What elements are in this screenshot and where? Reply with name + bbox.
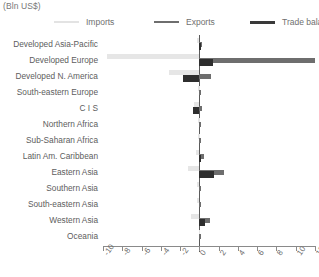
category-label: South-eastern Europe xyxy=(0,87,98,97)
x-axis-tick-label: -2 xyxy=(179,246,190,257)
legend-item-trade-balance: Trade balance xyxy=(250,15,319,29)
x-axis-line xyxy=(103,246,315,247)
bar-row xyxy=(103,102,315,118)
x-axis-tick-label: -4 xyxy=(160,246,171,257)
x-axis-tick-label: 4 xyxy=(237,248,247,257)
legend-item-imports: Imports xyxy=(54,15,114,29)
category-label: Eastern Asia xyxy=(0,167,98,177)
bar-row xyxy=(103,166,315,182)
bar-balance xyxy=(193,107,200,114)
x-axis-tick-label: 6 xyxy=(256,248,266,257)
bar-row xyxy=(103,230,315,246)
bar-row xyxy=(103,182,315,198)
category-label: Developed N. America xyxy=(0,71,98,81)
category-label: C I S xyxy=(0,103,98,113)
chart-legend: Imports Exports Trade balance xyxy=(54,15,316,29)
bar-row xyxy=(103,134,315,150)
legend-item-exports: Exports xyxy=(154,15,215,29)
bar-balance xyxy=(183,75,199,82)
legend-label-exports: Exports xyxy=(186,17,215,27)
x-axis-tick-label: -8 xyxy=(121,246,132,257)
bar-exports xyxy=(199,106,202,111)
plot-area xyxy=(103,38,315,246)
bar-exports xyxy=(199,90,200,95)
bar-imports xyxy=(191,214,200,219)
category-label: Western Asia xyxy=(0,215,98,225)
bar-exports xyxy=(199,186,201,191)
category-label: Latin Am. Caribbean xyxy=(0,151,98,161)
bar-row xyxy=(103,198,315,214)
category-label: Oceania xyxy=(0,231,98,241)
legend-label-trade-balance: Trade balance xyxy=(282,17,319,27)
bar-row xyxy=(103,214,315,230)
category-label: Northern Africa xyxy=(0,119,98,129)
legend-swatch-exports xyxy=(154,21,179,23)
bar-exports xyxy=(199,74,211,79)
bar-balance xyxy=(199,171,213,178)
category-label: Southern Asia xyxy=(0,183,98,193)
x-axis-tick-label: 2 xyxy=(218,248,228,257)
bar-balance xyxy=(199,59,212,66)
trade-balance-chart: (Bln US$) Imports Exports Trade balance … xyxy=(0,0,319,277)
bar-balance xyxy=(199,43,200,50)
bar-row xyxy=(103,118,315,134)
category-label: Developed Asia-Pacific xyxy=(0,39,98,49)
category-label: Developed Europe xyxy=(0,55,98,65)
bar-exports xyxy=(199,202,201,207)
bar-exports xyxy=(199,122,200,127)
category-label: South-eastern Asia xyxy=(0,199,98,209)
bar-row xyxy=(103,150,315,166)
x-axis-tick-label: -6 xyxy=(141,246,152,257)
x-axis-tick-label: 0 xyxy=(198,248,208,257)
bar-exports xyxy=(199,58,315,63)
bar-balance xyxy=(199,155,201,162)
category-label: Sub-Saharan Africa xyxy=(0,135,98,145)
unit-label: (Bln US$) xyxy=(3,1,41,11)
legend-label-imports: Imports xyxy=(86,17,114,27)
bar-balance xyxy=(199,219,205,226)
legend-swatch-trade-balance xyxy=(250,21,275,24)
bar-row xyxy=(103,38,315,54)
legend-swatch-imports xyxy=(54,21,79,23)
bar-imports xyxy=(107,54,200,59)
bar-row xyxy=(103,86,315,102)
category-axis-labels: Developed Asia-PacificDeveloped EuropeDe… xyxy=(0,38,98,246)
bar-exports xyxy=(199,138,200,143)
x-axis-tick-label: 8 xyxy=(275,248,285,257)
bar-imports xyxy=(188,166,200,171)
bar-row xyxy=(103,54,315,70)
bar-exports xyxy=(199,234,200,239)
bar-row xyxy=(103,70,315,86)
